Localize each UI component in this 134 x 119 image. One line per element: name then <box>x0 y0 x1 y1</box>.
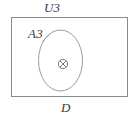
domain-label: D <box>61 101 71 114</box>
set-diagram-figure: U3 A3 D <box>0 0 134 119</box>
circled-times-icon <box>57 58 69 70</box>
subset-leader-line <box>43 34 51 42</box>
subset-label: A3 <box>28 27 43 40</box>
universe-label: U3 <box>44 1 60 14</box>
